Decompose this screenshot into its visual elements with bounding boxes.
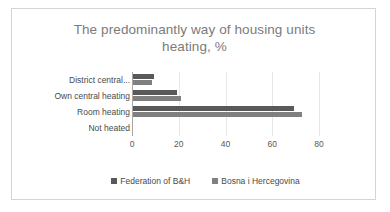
legend-item[interactable]: Bosna i Hercegovina [212, 176, 299, 186]
bar[interactable] [133, 106, 294, 111]
legend-label: Bosna i Hercegovina [221, 176, 299, 186]
category-label: District central... [20, 75, 130, 85]
category-label: Room heating [20, 107, 130, 117]
bar-group [133, 104, 320, 120]
tick-label: 20 [164, 139, 194, 149]
bar[interactable] [133, 80, 152, 85]
legend-swatch-icon [212, 178, 218, 184]
plot-area [132, 72, 319, 136]
bar[interactable] [133, 112, 302, 117]
category-label: Own central heating [20, 91, 130, 101]
bar-group [133, 120, 320, 136]
value-axis-tick-labels: 020406080 [132, 139, 319, 153]
category-axis-labels: District central...Own central heatingRo… [16, 72, 130, 136]
tick-label: 80 [304, 139, 334, 149]
bar-group [133, 72, 320, 88]
category-label: Not heated [20, 123, 130, 133]
bar[interactable] [133, 96, 181, 101]
chart-title: The predominantly way of housing units h… [42, 21, 347, 55]
bar-group [133, 88, 320, 104]
chart-frame: The predominantly way of housing units h… [11, 8, 376, 200]
chart-title-line-1: The predominantly way of housing units [42, 21, 347, 38]
tick-label: 40 [211, 139, 241, 149]
legend-label: Federation of B&H [120, 176, 190, 186]
tick-label: 60 [257, 139, 287, 149]
chart-title-line-2: heating, % [42, 38, 347, 55]
legend-item[interactable]: Federation of B&H [111, 176, 190, 186]
bar[interactable] [133, 74, 154, 79]
chart-legend: Federation of B&HBosna i Hercegovina [23, 176, 388, 186]
tick-label: 0 [117, 139, 147, 149]
bar[interactable] [133, 90, 177, 95]
legend-swatch-icon [111, 178, 117, 184]
